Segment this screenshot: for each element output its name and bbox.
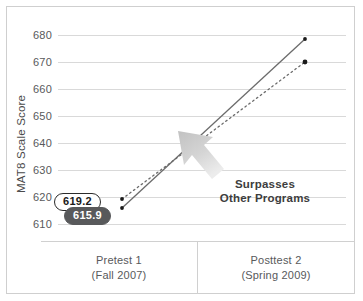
- x-axis-band: Pretest 1 (Fall 2007) Posttest 2 (Spring…: [41, 241, 354, 294]
- x-category-pretest-line1: Pretest 1: [96, 253, 142, 268]
- y-tick-label-660: 660: [33, 83, 52, 95]
- marker-dotted-start: [120, 197, 124, 201]
- arrow-shape: [178, 131, 224, 179]
- y-tick-label-670: 670: [33, 56, 52, 68]
- y-tick-label-610: 610: [33, 218, 52, 230]
- x-category-posttest-line2: (Spring 2009): [241, 268, 310, 283]
- chart-card: MAT8 Scale Score 680 670 660 650 640 630…: [6, 6, 355, 294]
- y-tick-label-680: 680: [33, 29, 52, 41]
- annotation-text: Surpasses Other Programs: [190, 177, 340, 205]
- y-tick-label-650: 650: [33, 110, 52, 122]
- x-category-pretest: Pretest 1 (Fall 2007): [41, 242, 197, 294]
- annotation-line-1: Surpasses: [190, 177, 340, 191]
- y-tick-label-630: 630: [33, 164, 52, 176]
- plot-area: 680 670 660 650 640 630 620 610: [58, 29, 346, 231]
- marker-solid-end: [303, 37, 307, 41]
- marker-dotted-end: [303, 60, 308, 65]
- data-label-615: 615.9: [64, 207, 111, 225]
- y-tick-label-620: 620: [33, 191, 52, 203]
- x-category-posttest: Posttest 2 (Spring 2009): [198, 242, 354, 294]
- x-category-pretest-line2: (Fall 2007): [92, 268, 147, 283]
- y-tick-label-640: 640: [33, 137, 52, 149]
- y-axis-title: MAT8 Scale Score: [13, 69, 29, 219]
- annotation-line-2: Other Programs: [190, 191, 340, 205]
- x-category-posttest-line1: Posttest 2: [251, 253, 302, 268]
- marker-solid-start: [120, 206, 124, 210]
